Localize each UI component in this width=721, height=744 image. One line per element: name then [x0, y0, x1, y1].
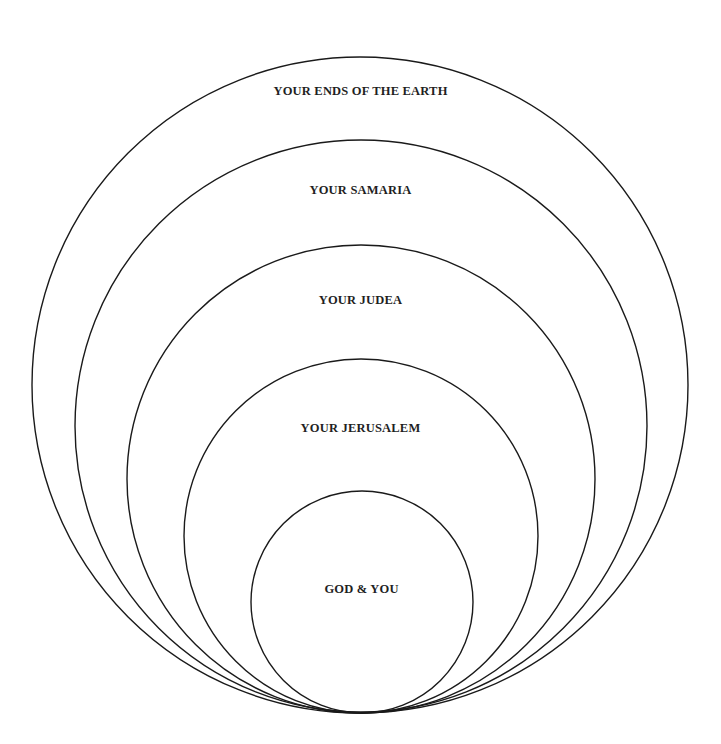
concentric-circles-diagram: YOUR ENDS OF THE EARTH YOUR SAMARIA YOUR… — [0, 0, 721, 744]
circle-judea — [127, 245, 595, 713]
label-god-and-you: GOD & YOU — [1, 582, 721, 596]
circle-god-and-you — [251, 491, 473, 713]
circle-ends-of-the-earth — [32, 57, 688, 713]
label-samaria: YOUR SAMARIA — [0, 183, 721, 197]
label-judea: YOUR JUDEA — [0, 293, 721, 307]
circle-jerusalem — [184, 359, 538, 713]
label-jerusalem: YOUR JERUSALEM — [0, 421, 721, 435]
label-ends-of-the-earth: YOUR ENDS OF THE EARTH — [0, 84, 721, 98]
circles-svg — [0, 0, 721, 744]
